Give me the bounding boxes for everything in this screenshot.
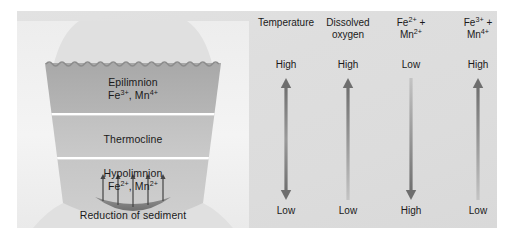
thermocline-label: Thermocline (47, 133, 219, 146)
column-fe3-mn4-top-label: High (447, 59, 509, 70)
column-fe2-mn2-top-label: Low (380, 59, 442, 70)
column-dissolved-oxygen-bottom-label: Low (317, 205, 379, 216)
lake-stratification-figure: Epilimnion Fe3+, Mn4+ Thermocline Hypoli… (0, 0, 513, 240)
column-fe2-mn2-arrow (380, 77, 442, 201)
column-temperature-arrow (255, 77, 317, 201)
column-dissolved-oxygen-title: Dissolved oxygen (317, 17, 379, 41)
column-fe2-mn2: Fe2+ + Mn2+ Low High (380, 11, 442, 228)
gradient-columns: Temperature High Low (249, 11, 497, 228)
column-temperature: Temperature High Low (255, 11, 317, 228)
epilimnion-species: Fe3+, Mn4+ (108, 89, 158, 101)
epi-thermo-divider (37, 113, 233, 115)
epilimnion-label: Epilimnion Fe3+, Mn4+ (47, 76, 219, 101)
column-dissolved-oxygen-arrow (317, 77, 379, 201)
column-temperature-title: Temperature (255, 17, 317, 29)
column-dissolved-oxygen-top-label: High (317, 59, 379, 70)
figure-panel: Epilimnion Fe3+, Mn4+ Thermocline Hypoli… (17, 11, 497, 228)
column-fe2-mn2-title: Fe2+ + Mn2+ (380, 17, 442, 41)
column-fe3-mn4-arrow (447, 77, 509, 201)
lake-cross-section: Epilimnion Fe3+, Mn4+ Thermocline Hypoli… (17, 11, 249, 228)
thermo-hypo-divider (37, 157, 233, 159)
hypolimnion-species: Fe2+, Mn2+ (108, 180, 158, 192)
column-fe3-mn4-bottom-label: Low (447, 205, 509, 216)
column-fe2-mn2-bottom-label: High (380, 205, 442, 216)
column-fe3-mn4: Fe3+ + Mn4+ High Low (447, 11, 509, 228)
column-temperature-top-label: High (255, 59, 317, 70)
column-fe3-mn4-title: Fe3+ + Mn4+ (447, 17, 509, 41)
lake-svg (17, 11, 249, 228)
column-dissolved-oxygen: Dissolved oxygen High Low (317, 11, 379, 228)
sediment-caption: Reduction of sediment (25, 209, 241, 222)
column-temperature-bottom-label: Low (255, 205, 317, 216)
thermocline-name: Thermocline (104, 133, 163, 145)
hypolimnion-label: Hypolimnion Fe2+, Mn2+ (47, 167, 219, 192)
